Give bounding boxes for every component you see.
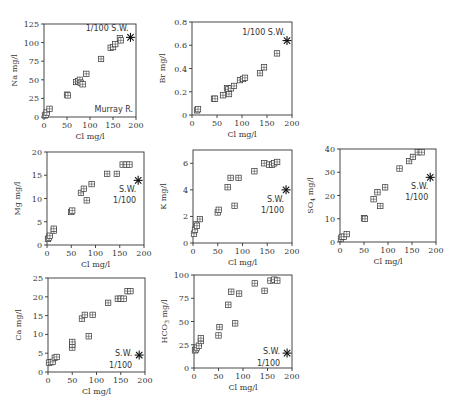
y-axis-label: Ca mg/l: [14, 309, 23, 341]
y-tick-label: 0.4: [174, 65, 187, 74]
data-point-marker: [262, 288, 267, 293]
data-point-marker: [198, 336, 203, 341]
y-tick-label: 125: [24, 20, 39, 29]
x-tick-label: 50: [359, 246, 369, 255]
data-point-marker: [118, 38, 123, 43]
x-tick-label: 200: [136, 249, 151, 258]
y-tick-label: 5: [37, 218, 42, 227]
y-tick-label: 20: [325, 192, 335, 201]
y-tick-label: 30: [325, 168, 335, 177]
y-tick-label: 0: [34, 113, 39, 122]
river-name-annotation: Murray R.: [95, 105, 133, 114]
x-axis-label: Cl mg/l: [228, 383, 258, 392]
y-axis-label: Mg mg/l: [13, 181, 22, 215]
y-tick-label: 0.6: [174, 41, 187, 50]
y-tick-label: 20: [33, 293, 43, 302]
y-axis-label: SO4 mg/l: [306, 177, 316, 214]
seawater-star-icon: [126, 33, 135, 42]
x-tick-label: 50: [213, 372, 223, 381]
data-point-marker: [212, 96, 217, 101]
x-tick-label: 0: [190, 247, 195, 256]
seawater-label: 1/100: [113, 196, 136, 205]
y-tick-label: 75: [29, 57, 39, 66]
data-point-marker: [220, 93, 225, 98]
seawater-label: S.W.: [263, 347, 280, 356]
data-point-marker: [375, 190, 380, 195]
y-tick-label: 5: [38, 349, 43, 358]
data-point-marker: [382, 185, 387, 190]
x-tick-label: 50: [212, 119, 222, 128]
x-tick-label: 200: [284, 372, 299, 381]
data-point-marker: [226, 302, 231, 307]
seawater-label: 1/100: [257, 359, 280, 368]
y-axis-label: Na mg/l: [10, 54, 19, 87]
seawater-star-icon: [283, 36, 292, 45]
seawater-label: S.W.: [115, 349, 132, 358]
y-tick-label: 0: [182, 111, 187, 120]
y-tick-label: 25: [179, 341, 189, 350]
data-point-marker: [229, 289, 234, 294]
y-tick-label: 10: [325, 215, 335, 224]
y-tick-label: 50: [29, 76, 39, 85]
x-tick-label: 0: [45, 376, 50, 385]
data-point-marker: [252, 169, 257, 174]
data-point-marker: [231, 83, 236, 88]
x-axis-label: Cl mg/l: [82, 387, 112, 396]
x-tick-label: 100: [234, 119, 249, 128]
x-tick-label: 50: [62, 121, 72, 130]
data-point-marker: [226, 91, 231, 96]
x-tick-label: 100: [89, 376, 104, 385]
data-point-marker: [114, 171, 119, 176]
data-point-marker: [128, 288, 133, 293]
data-point-marker: [236, 175, 241, 180]
data-point-marker: [70, 208, 75, 213]
data-point-marker: [225, 185, 230, 190]
seawater-star-icon: [282, 185, 291, 194]
x-tick-label: 100: [82, 121, 97, 130]
x-tick-label: 150: [260, 372, 275, 381]
data-point-marker: [228, 175, 233, 180]
x-tick-label: 200: [284, 119, 299, 128]
x-tick-label: 150: [105, 121, 120, 130]
panel-br: 05010015020000.20.40.60.8Cl mg/lBr mg/l1…: [158, 18, 300, 139]
x-tick-label: 0: [191, 372, 196, 381]
data-point-marker: [51, 226, 56, 231]
data-point-marker: [274, 51, 279, 56]
panel-ca: 0501001502000510152025Cl mg/lCa mg/lS.W.…: [14, 274, 153, 396]
seawater-star-icon: [283, 349, 292, 358]
data-point-marker: [216, 333, 221, 338]
y-tick-label: 75: [179, 294, 189, 303]
x-tick-label: 0: [189, 119, 194, 128]
data-point-marker: [98, 56, 103, 61]
data-point-marker: [54, 354, 59, 359]
panel-so4: 050100150200010203040Cl mg/lSO4 mg/lS.W.…: [306, 145, 444, 266]
data-point-marker: [257, 70, 262, 75]
data-point-marker: [113, 41, 118, 46]
data-point-marker: [371, 197, 376, 202]
x-tick-label: 50: [67, 376, 77, 385]
y-tick-label: 15: [32, 171, 42, 180]
x-axis-label: Cl mg/l: [227, 130, 257, 139]
y-tick-label: 0: [38, 368, 43, 377]
data-point-marker: [70, 339, 75, 344]
data-point-marker: [47, 106, 52, 111]
x-tick-label: 200: [137, 376, 152, 385]
x-tick-label: 150: [259, 119, 274, 128]
x-tick-label: 100: [380, 246, 395, 255]
y-tick-label: 0: [37, 241, 42, 250]
seawater-label: 1/100 S.W.: [86, 24, 129, 33]
y-tick-label: 40: [325, 145, 335, 154]
data-point-marker: [378, 203, 383, 208]
y-tick-label: 4: [183, 186, 188, 195]
x-tick-label: 0: [337, 246, 342, 255]
data-point-marker: [275, 278, 280, 283]
seawater-label: S.W.: [267, 195, 284, 204]
data-point-marker: [217, 324, 222, 329]
y-axis-label: K mg/l: [159, 183, 168, 210]
x-tick-label: 150: [112, 249, 127, 258]
data-point-marker: [252, 281, 257, 286]
x-tick-label: 200: [428, 246, 443, 255]
x-tick-label: 0: [44, 249, 49, 258]
data-point-marker: [197, 216, 202, 221]
data-point-marker: [261, 65, 266, 70]
